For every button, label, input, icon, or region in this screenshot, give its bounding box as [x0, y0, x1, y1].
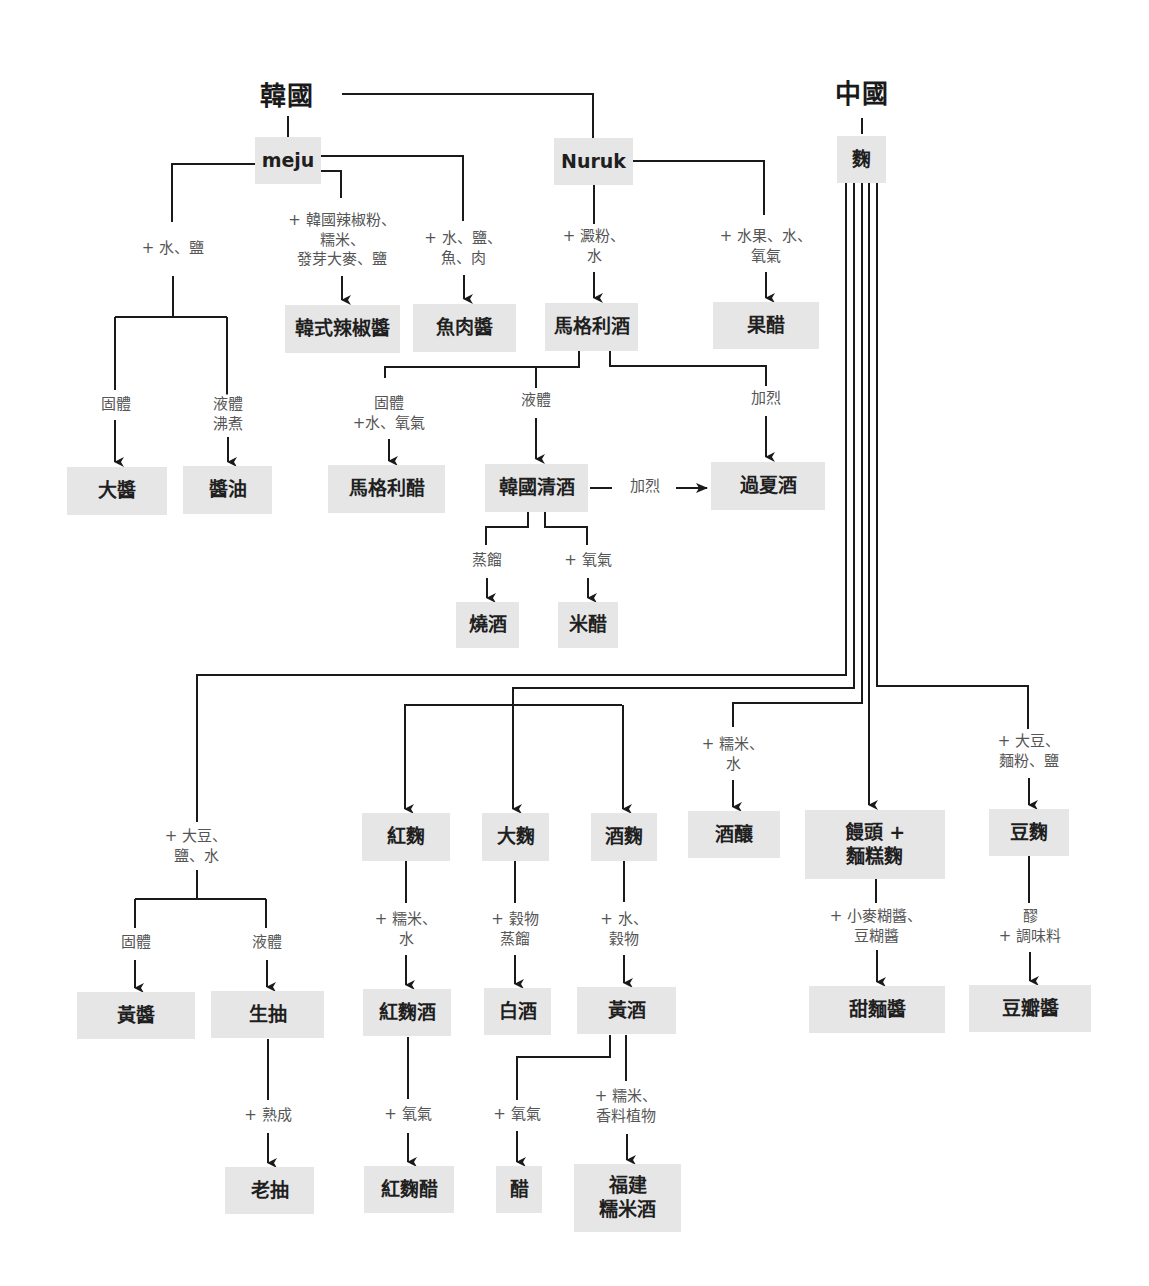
- edge-label-l-distill1: 蒸餾: [470, 551, 504, 571]
- node-doubanjiang: 豆瓣醬: [969, 985, 1091, 1032]
- node-fish-sauce: 魚肉醬: [413, 304, 516, 352]
- edge-label-l-water-grain: + 水、 穀物: [598, 910, 649, 949]
- edge-label-l-oxygen2: + 氧氣: [382, 1105, 433, 1125]
- node-shengchou: 生抽: [211, 991, 324, 1038]
- node-gochujang: 韓式辣椒醬: [285, 305, 400, 353]
- node-baijiu: 白酒: [484, 988, 551, 1035]
- edge-label-l-glutinous-water1: + 糯米、 水: [700, 735, 766, 774]
- node-jiuqu: 酒麴: [591, 813, 657, 861]
- node-cheongju: 韓國清酒: [485, 464, 588, 512]
- edge-label-l-mash-seasoning: 醪 + 調味料: [997, 907, 1063, 946]
- edge-label-l-fortify1: 加烈: [749, 389, 783, 409]
- node-fujian-rice-wine: 福建 糯米酒: [574, 1164, 681, 1232]
- edge-label-l-glutinous-water2: + 糯米、 水: [373, 910, 439, 949]
- node-soju: 燒酒: [456, 602, 519, 648]
- node-rice-vinegar: 米醋: [558, 602, 618, 648]
- edge-label-l-solid1: 固體: [99, 395, 133, 415]
- edge-label-l-soy-salt-water: + 大豆、 鹽、水: [163, 827, 229, 866]
- fermentation-flowchart: 韓國中國 + 水、鹽+ 韓國辣椒粉、 糯米、 發芽大麥、鹽+ 水、鹽、 魚、肉+…: [0, 0, 1149, 1286]
- edge-label-l-wheat-bean-paste: + 小麥糊醬、 豆糊醬: [828, 907, 924, 946]
- node-meju: meju: [255, 137, 321, 184]
- node-huangjiu: 黃酒: [577, 987, 676, 1034]
- node-soy-sauce: 醬油: [183, 466, 272, 514]
- node-jiuniang: 酒釀: [688, 811, 780, 858]
- node-hongqu-jiu: 紅麴酒: [363, 989, 451, 1036]
- node-cu: 醋: [496, 1166, 542, 1213]
- edge-label-l-grain-distill: + 穀物 蒸餾: [489, 910, 540, 949]
- edge-label-l-liquid-boil: 液體 沸煮: [211, 395, 245, 434]
- node-laochou: 老抽: [225, 1167, 314, 1214]
- edge-label-l-aging: + 熟成: [242, 1106, 293, 1126]
- node-daqu: 大麴: [482, 813, 549, 861]
- node-makgeolli-vinegar: 馬格利醋: [328, 465, 445, 513]
- edge-label-l-solid-water-o2: 固體 +水、氧氣: [351, 394, 428, 433]
- edge-label-l-fish: + 水、鹽、 魚、肉: [422, 229, 503, 268]
- node-tianmianjiang: 甜麵醬: [809, 986, 945, 1033]
- edge-label-l-fruit: + 水果、水、 氧氣: [718, 227, 814, 266]
- node-makgeolli: 馬格利酒: [545, 303, 638, 351]
- edge-label-l-oxygen3: + 氧氣: [491, 1105, 542, 1125]
- title-china: 中國: [835, 73, 889, 110]
- node-qu: 麴: [837, 136, 886, 183]
- edge-label-l-liquid2: 液體: [250, 933, 284, 953]
- edge-label-l-glutinous-spice: + 糯米、 香料植物: [593, 1087, 659, 1126]
- node-hongqu: 紅麴: [362, 813, 450, 861]
- node-hongqu-vinegar: 紅麴醋: [364, 1166, 454, 1213]
- edge-label-l-starch: + 澱粉、 水: [561, 227, 627, 266]
- node-nuruk: Nuruk: [554, 138, 633, 185]
- title-korea: 韓國: [260, 75, 314, 112]
- edge-label-l-water-salt: + 水、鹽: [140, 239, 206, 259]
- node-huangjiang: 黃醬: [77, 992, 195, 1039]
- node-mantou-qu: 饅頭 + 麵糕麴: [805, 810, 945, 879]
- node-gwahaju: 過夏酒: [711, 462, 825, 510]
- edge-label-l-soy-flour-salt: + 大豆、 麵粉、鹽: [996, 732, 1062, 771]
- node-douqu: 豆麴: [989, 809, 1069, 856]
- edge-label-l-solid2: 固體: [119, 933, 153, 953]
- edge-label-l-fortify2: 加烈: [628, 477, 662, 497]
- edge-label-l-gochujang: + 韓國辣椒粉、 糯米、 發芽大麥、鹽: [286, 211, 397, 270]
- edge-label-l-liquid1: 液體: [519, 391, 553, 411]
- edge-label-l-oxygen1: + 氧氣: [562, 551, 613, 571]
- node-doenjang: 大醬: [67, 467, 167, 515]
- node-fruit-vinegar: 果醋: [713, 302, 819, 349]
